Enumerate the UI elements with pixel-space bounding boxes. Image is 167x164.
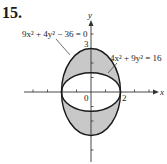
wide-ellipse-equation: 4x² + 9y² = 16 [110,53,162,63]
y-axis-label: y [87,10,92,20]
tall-ellipse-equation: 9x² + 4y² − 36 = 0 [22,29,88,39]
y-tick-label-3: 3 [84,39,89,49]
graph: y x 0 2 3 9x² + 4y² − 36 = 0 4x² + 9y² =… [0,0,167,164]
origin-label: 0 [84,93,89,103]
x-axis-label: x [159,87,164,97]
x-tick-label-2: 2 [122,93,127,103]
leader-line-tall [56,39,70,55]
